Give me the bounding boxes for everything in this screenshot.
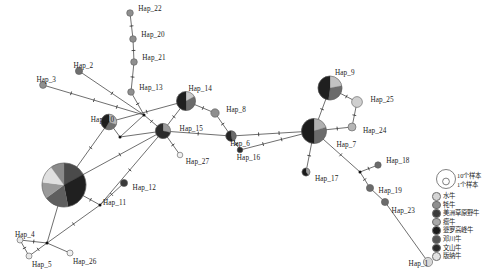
node-label-hap_16: Hap_16 <box>237 155 260 162</box>
network-edge <box>47 243 70 253</box>
mutation-tick <box>146 110 147 114</box>
node-label-hap_19: Hap_19 <box>379 188 402 195</box>
legend-item-list: 水牛牦牛美洲草原野牛瘤牛婆罗高峰牛邓川牛文山牛版纳牛 <box>432 192 498 261</box>
node-disc <box>131 59 138 66</box>
haplotype-node[interactable] <box>302 168 310 176</box>
legend-scale-small-label: 1个样本 <box>457 180 478 189</box>
haplotype-node[interactable] <box>177 92 196 111</box>
legend-item: 版纳牛 <box>432 252 498 261</box>
node-label-hap_21: Hap_21 <box>142 55 165 62</box>
legend-item: 邓川牛 <box>432 235 498 244</box>
node-disc <box>128 89 135 96</box>
legend: 10个样本 1个样本 水牛牦牛美洲草原野牛瘤牛婆罗高峰牛邓川牛文山牛版纳牛 <box>432 168 498 261</box>
node-label-hap_14: Hap_14 <box>189 86 212 93</box>
legend-item-label: 瘤牛 <box>443 219 455 225</box>
legend-scale-large-label: 10个样本 <box>457 171 481 180</box>
haplotype-node[interactable] <box>131 59 138 66</box>
mutation-tick <box>368 167 369 171</box>
haplotype-node[interactable] <box>177 152 183 158</box>
node-label-hap_23: Hap_23 <box>392 208 415 215</box>
legend-swatch-icon <box>432 252 441 261</box>
haplotype-node[interactable] <box>366 184 373 191</box>
node-label-hap_10: Hap_10 <box>91 117 114 124</box>
node-label-hap_2: Hap_2 <box>74 63 94 70</box>
haplotype-node[interactable] <box>352 97 363 108</box>
haplotype-node[interactable] <box>42 163 86 207</box>
legend-item-label: 美洲草原野牛 <box>443 210 479 216</box>
haplotype-node[interactable] <box>130 36 137 43</box>
node-disc <box>130 36 137 43</box>
node-label-hap_18: Hap_18 <box>386 158 409 165</box>
legend-swatch-icon <box>432 218 441 227</box>
haplotype-node[interactable] <box>127 10 134 17</box>
node-label-hap_4: Hap_4 <box>15 232 35 239</box>
legend-item-label: 牦牛 <box>443 202 455 208</box>
node-label-hap_12: Hap_12 <box>133 185 156 192</box>
node-label-hap_25: Hap_25 <box>370 97 393 104</box>
node-slice <box>318 76 330 100</box>
haplotype-node[interactable] <box>211 109 219 117</box>
node-label-hap_5: Hap_5 <box>32 262 52 269</box>
mutation-tick <box>71 92 72 96</box>
node-label-hap_26: Hap_26 <box>73 259 96 266</box>
edge-layer <box>20 13 428 262</box>
legend-item: 牦牛 <box>432 201 498 210</box>
node-disc <box>26 253 32 259</box>
haplotype-node[interactable] <box>120 179 127 186</box>
mutation-tick <box>263 142 264 146</box>
mutation-tick <box>116 105 117 109</box>
legend-swatch-icon <box>432 244 441 253</box>
haplotype-node[interactable] <box>26 253 32 259</box>
node-label-hap_1: Hap_1 <box>409 261 429 268</box>
node-label-hap_6: Hap_6 <box>230 141 250 148</box>
mutation-tick <box>307 155 311 156</box>
node-slice <box>177 92 187 111</box>
network-junction <box>99 204 102 207</box>
node-label-hap_24: Hap_24 <box>363 128 386 135</box>
mutation-tick <box>93 98 94 102</box>
node-disc <box>120 179 127 186</box>
legend-item-label: 文山牛 <box>443 245 461 251</box>
network-junction <box>143 114 146 117</box>
haplotype-node[interactable] <box>155 123 170 138</box>
legend-swatch-icon <box>432 192 441 201</box>
haplotype-node[interactable] <box>348 123 356 131</box>
mutation-tick <box>281 137 282 141</box>
legend-size-scale: 10个样本 1个样本 <box>432 168 498 192</box>
node-disc <box>237 147 243 153</box>
node-disc <box>211 109 219 117</box>
node-label-hap_11: Hap_11 <box>103 200 126 207</box>
node-label-hap_22: Hap_22 <box>138 6 161 13</box>
legend-item-label: 婆罗高峰牛 <box>443 227 473 233</box>
legend-item-label: 邓川牛 <box>443 236 461 242</box>
mutation-tick <box>352 115 356 116</box>
node-disc <box>366 184 373 191</box>
node-disc <box>177 152 183 158</box>
legend-item: 美洲草原野牛 <box>432 209 498 218</box>
legend-swatch-icon <box>432 201 441 210</box>
node-disc <box>381 198 388 205</box>
legend-item-label: 版纳牛 <box>443 253 461 259</box>
haplotype-node[interactable] <box>237 147 243 153</box>
node-layer <box>17 10 433 267</box>
haplotype-node[interactable] <box>375 162 381 168</box>
haplotype-node[interactable] <box>302 119 327 144</box>
haplotype-node[interactable] <box>67 250 73 256</box>
haplotype-network-figure: Hap_22Hap_20Hap_21Hap_13Hap_2Hap_3Hap_14… <box>0 0 498 277</box>
legend-swatch-icon <box>432 235 441 244</box>
legend-item: 婆罗高峰牛 <box>432 226 498 235</box>
network-canvas <box>0 0 498 277</box>
network-junction <box>359 171 362 174</box>
network-junction <box>119 136 122 139</box>
network-edge <box>109 101 186 122</box>
mutation-tick <box>89 147 92 149</box>
node-label-hap_20: Hap_20 <box>141 32 164 39</box>
haplotype-node[interactable] <box>128 89 135 96</box>
haplotype-node[interactable] <box>318 76 342 100</box>
mutation-tick <box>171 144 174 146</box>
node-disc <box>352 97 363 108</box>
node-label-hap_17: Hap_17 <box>315 176 338 183</box>
legend-swatch-icon <box>432 226 441 235</box>
haplotype-node[interactable] <box>381 198 388 205</box>
node-disc <box>67 250 73 256</box>
